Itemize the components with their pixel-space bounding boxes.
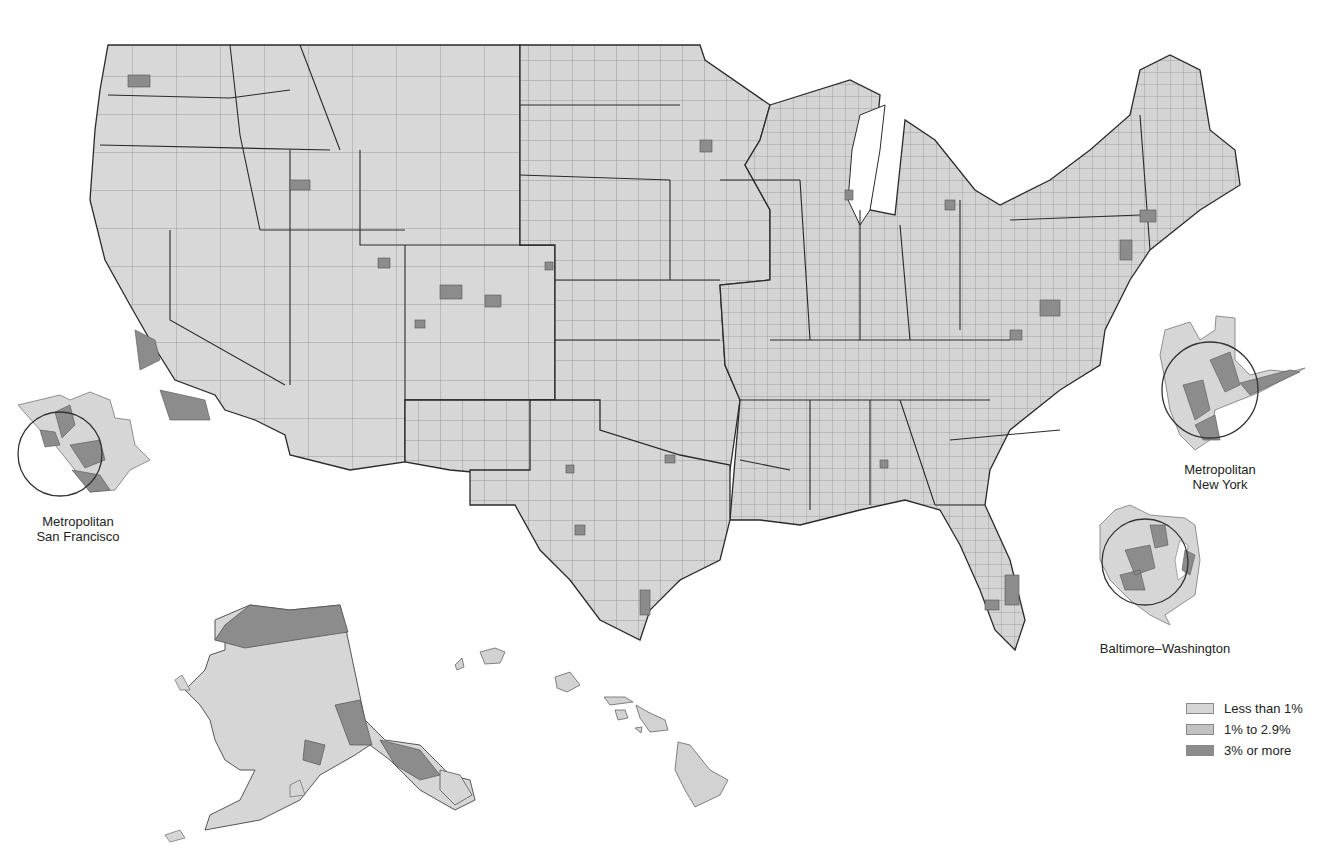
inset-label-baltimore-washington: Baltimore–Washington <box>1075 641 1255 656</box>
us-county-map <box>0 0 1342 867</box>
legend-label-mid: 1% to 2.9% <box>1224 722 1291 737</box>
ny-label-line1: Metropolitan <box>1170 462 1270 477</box>
contiguous-us <box>90 45 1240 650</box>
legend-item-high: 3% or more <box>1186 740 1303 760</box>
legend-swatch-high <box>1186 745 1214 756</box>
legend-swatch-mid <box>1186 724 1214 735</box>
legend-label-high: 3% or more <box>1224 743 1291 758</box>
inset-baltimore-washington <box>1100 505 1200 625</box>
legend-label-low: Less than 1% <box>1224 701 1303 716</box>
ny-label-line2: New York <box>1170 477 1270 492</box>
state-hawaii <box>455 648 728 807</box>
inset-new-york <box>1160 316 1305 450</box>
legend-swatch-low <box>1186 703 1214 714</box>
legend-item-low: Less than 1% <box>1186 698 1303 718</box>
state-alaska <box>165 605 475 842</box>
inset-label-new-york: Metropolitan New York <box>1170 462 1270 492</box>
bw-label-line1: Baltimore–Washington <box>1075 641 1255 656</box>
sf-label-line1: Metropolitan <box>18 514 138 529</box>
map-legend: Less than 1% 1% to 2.9% 3% or more <box>1186 698 1303 761</box>
inset-label-san-francisco: Metropolitan San Francisco <box>18 514 138 544</box>
sf-label-line2: San Francisco <box>18 529 138 544</box>
legend-item-mid: 1% to 2.9% <box>1186 719 1303 739</box>
inset-san-francisco <box>18 392 150 496</box>
